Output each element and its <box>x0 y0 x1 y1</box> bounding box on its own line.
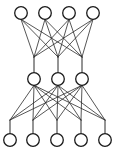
node-top-layer-0 <box>15 7 28 20</box>
edge-group-top-to-middle <box>21 19 93 57</box>
node-middle-layer-0 <box>28 73 41 86</box>
node-bottom-layer-3 <box>75 134 88 147</box>
node-top-layer-2 <box>63 7 76 20</box>
edge-middle-layer-0-to-0 <box>10 85 34 120</box>
node-bottom-layer-1 <box>27 134 40 147</box>
neural-network-diagram <box>0 0 120 155</box>
node-bottom-layer-0 <box>4 134 17 147</box>
edge-middle-layer-2-to-2 <box>57 85 82 120</box>
node-bottom-layer-4 <box>99 134 112 147</box>
node-top-layer-1 <box>39 7 52 20</box>
edge-middle-layer-2-to-3 <box>81 85 82 120</box>
network-canvas <box>0 0 120 155</box>
node-bottom-layer-2 <box>51 134 64 147</box>
edge-middle-layer-2-to-0 <box>10 85 82 120</box>
node-middle-layer-1 <box>52 73 65 86</box>
edge-group-middle-to-bottom <box>10 85 105 120</box>
edge-top-layer-0-to-0 <box>21 19 34 57</box>
node-top-layer-3 <box>87 7 100 20</box>
node-middle-layer-2 <box>76 73 89 86</box>
